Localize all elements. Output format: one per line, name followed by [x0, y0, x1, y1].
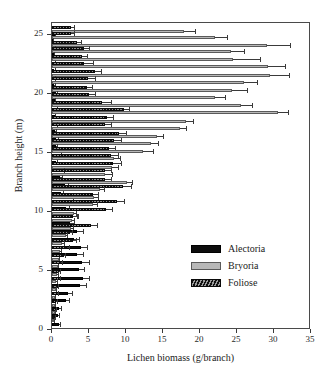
x-tick: [88, 329, 89, 333]
bar-bryoria: [52, 127, 180, 130]
error-bar: [151, 142, 159, 145]
x-tick-label: 0: [39, 334, 63, 344]
error-bar: [67, 246, 70, 249]
error-bar: [184, 30, 196, 33]
x-tick-label: 25: [224, 334, 248, 344]
bar-bryoria: [52, 89, 232, 92]
error-bar: [123, 185, 132, 188]
error-bar: [157, 135, 164, 138]
y-tick-label: 15: [23, 146, 43, 156]
error-bar: [91, 224, 98, 227]
x-tick-label: 10: [113, 334, 137, 344]
error-bar: [232, 89, 248, 92]
x-tick-label: 15: [150, 334, 174, 344]
error-bar: [105, 173, 112, 176]
error-bar: [58, 285, 59, 288]
legend-label-bryoria: Bryoria: [228, 260, 259, 271]
legend-label-foliose: Foliose: [228, 277, 257, 288]
y-axis-title: Branch height (m): [13, 86, 24, 226]
chart-legend: Alectoria Bryoria Foliose: [191, 243, 265, 294]
error-bar: [59, 307, 62, 310]
bar-bryoria: [52, 96, 215, 99]
error-bar: [82, 261, 89, 264]
x-tick: [199, 329, 200, 333]
bars-layer: [52, 23, 309, 328]
error-bar: [79, 268, 86, 271]
error-bar: [180, 127, 187, 130]
bar-bryoria: [52, 65, 268, 68]
bar-bryoria: [52, 111, 278, 114]
y-tick: [47, 211, 51, 212]
x-tick: [51, 329, 52, 333]
x-tick: [310, 329, 311, 333]
error-bar: [143, 150, 154, 153]
error-bar: [64, 254, 67, 257]
error-bar: [278, 111, 288, 114]
x-tick-label: 30: [261, 334, 285, 344]
error-bar: [112, 166, 119, 169]
bar-bryoria: [52, 50, 231, 53]
error-bar: [59, 277, 61, 280]
error-bar: [215, 96, 226, 99]
y-tick-label: 25: [23, 28, 43, 38]
legend-swatch-bryoria: [191, 262, 221, 270]
bar-bryoria: [52, 36, 215, 39]
bar-bryoria: [52, 81, 244, 84]
error-bar: [241, 104, 253, 107]
error-bar: [59, 323, 62, 326]
error-bar: [268, 65, 286, 68]
error-bar: [93, 203, 97, 206]
bar-alectoria: [52, 323, 59, 326]
x-tick: [236, 329, 237, 333]
error-bar: [231, 50, 245, 53]
x-axis-title: Lichen biomass (g/branch): [51, 352, 310, 363]
error-bar: [100, 188, 105, 191]
error-bar: [94, 196, 98, 199]
y-tick: [47, 34, 51, 35]
y-tick-label: 5: [23, 264, 43, 274]
y-tick-label: 0: [23, 323, 43, 333]
bar-bryoria: [52, 142, 151, 145]
error-bar: [58, 314, 60, 317]
error-bar: [270, 74, 290, 77]
legend-swatch-foliose: [191, 279, 221, 287]
error-bar: [61, 261, 63, 264]
bar-bryoria: [52, 150, 143, 153]
error-bar: [57, 292, 58, 295]
error-bar: [83, 277, 90, 280]
error-bar: [77, 253, 84, 256]
bar-bryoria: [52, 74, 270, 77]
y-tick: [47, 270, 51, 271]
error-bar: [233, 58, 260, 61]
y-tick: [47, 93, 51, 94]
error-bar: [117, 200, 124, 203]
error-bar: [80, 284, 87, 287]
x-tick-label: 35: [298, 334, 322, 344]
x-tick: [162, 329, 163, 333]
error-bar: [267, 44, 291, 47]
y-tick-label: 20: [23, 87, 43, 97]
bar-bryoria: [52, 120, 186, 123]
error-bar: [56, 300, 57, 303]
error-bar: [77, 230, 84, 233]
error-bar: [56, 308, 57, 311]
error-bar: [114, 157, 121, 160]
error-bar: [106, 208, 113, 211]
legend-item-foliose: Foliose: [191, 277, 265, 288]
error-bar: [244, 81, 258, 84]
y-tick: [47, 329, 51, 330]
x-tick: [125, 329, 126, 333]
plot-area: [51, 22, 310, 329]
legend-label-alectoria: Alectoria: [228, 243, 265, 254]
error-bar: [81, 246, 88, 249]
legend-item-alectoria: Alectoria: [191, 243, 265, 254]
x-tick-label: 20: [187, 334, 211, 344]
error-bar: [186, 120, 194, 123]
x-tick-label: 5: [76, 334, 100, 344]
y-tick: [47, 152, 51, 153]
lichen-biomass-chart: 051015202530350510152025 Lichen biomass …: [0, 0, 332, 378]
bar-bryoria: [52, 135, 157, 138]
legend-item-bryoria: Bryoria: [191, 260, 265, 271]
legend-swatch-alectoria: [191, 245, 221, 253]
bar-bryoria: [52, 104, 241, 107]
